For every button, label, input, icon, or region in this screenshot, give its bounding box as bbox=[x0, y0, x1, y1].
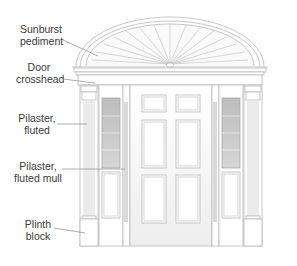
label-line: Pilaster, bbox=[14, 160, 62, 172]
sunburst-pediment bbox=[72, 17, 268, 67]
label-pilaster-fluted-mull: Pilaster, fluted mull bbox=[14, 160, 62, 184]
label-line: pediment bbox=[20, 35, 62, 47]
label-line: Plinth bbox=[22, 218, 54, 230]
label-pilaster-fluted: Pilaster, fluted bbox=[18, 112, 56, 136]
main-door bbox=[130, 85, 212, 246]
right-plinth-block bbox=[244, 219, 262, 246]
door-crosshead bbox=[74, 68, 266, 85]
right-sidelight bbox=[219, 85, 243, 246]
left-pilaster bbox=[80, 85, 98, 246]
label-line: Door bbox=[16, 61, 62, 73]
right-fluted-mull bbox=[212, 85, 219, 246]
label-plinth-block: Plinth block bbox=[22, 218, 54, 242]
label-sunburst-pediment: Sunburst pediment bbox=[20, 23, 62, 47]
label-line: Sunburst bbox=[20, 23, 62, 35]
left-sidelight bbox=[99, 85, 123, 246]
label-line: fluted mull bbox=[14, 172, 62, 184]
right-pilaster bbox=[244, 85, 262, 246]
label-line: block bbox=[22, 230, 54, 242]
leader-sunburst bbox=[63, 40, 98, 56]
label-door-crosshead: Door crosshead bbox=[16, 61, 62, 85]
label-line: crosshead bbox=[16, 73, 62, 85]
label-line: fluted bbox=[18, 124, 56, 136]
left-fluted-mull bbox=[123, 85, 130, 246]
label-line: Pilaster, bbox=[18, 112, 56, 124]
